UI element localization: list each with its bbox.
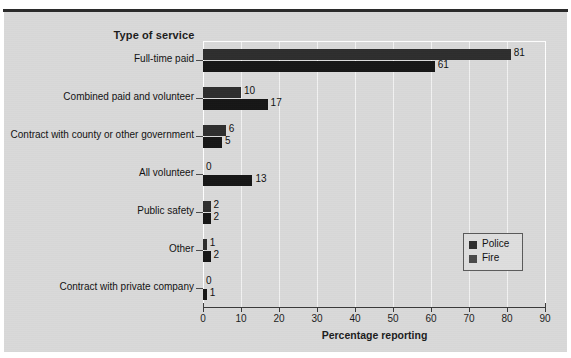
x-tick-label-10: 10 (226, 313, 256, 324)
bar-value-police-2: 6 (229, 123, 235, 134)
category-label-0: Full-time paid (0, 53, 194, 64)
x-tick-20 (279, 307, 280, 312)
x-tick-40 (355, 307, 356, 312)
plot-top-frame (203, 41, 545, 42)
category-label-1: Combined paid and volunteer (0, 91, 194, 102)
bar-fire-4 (203, 213, 211, 224)
category-tick-2 (196, 136, 203, 137)
category-label-2: Contract with county or other government (0, 129, 194, 140)
category-tick-4 (196, 212, 203, 213)
x-tick-label-70: 70 (454, 313, 484, 324)
x-tick-label-50: 50 (378, 313, 408, 324)
gridline-50 (393, 41, 394, 307)
bar-value-fire-6: 1 (210, 287, 216, 298)
x-tick-60 (431, 307, 432, 312)
bar-value-police-5: 1 (210, 237, 216, 248)
x-axis-line (203, 307, 546, 308)
bar-police-5 (203, 239, 207, 250)
x-tick-90 (545, 307, 546, 312)
x-tick-label-80: 80 (492, 313, 522, 324)
bar-fire-0 (203, 61, 435, 72)
bar-fire-3 (203, 175, 252, 186)
chart-panel: Type of service 8161101765013221201 0102… (4, 12, 567, 352)
x-tick-50 (393, 307, 394, 312)
bar-value-fire-4: 2 (214, 211, 220, 222)
legend-label-fire: Fire (482, 252, 499, 263)
legend-label-police: Police (482, 238, 509, 249)
category-label-3: All volunteer (0, 167, 194, 178)
x-tick-label-30: 30 (302, 313, 332, 324)
chart-legend: Police Fire (463, 233, 523, 271)
category-tick-6 (196, 288, 203, 289)
gridline-40 (355, 41, 356, 307)
bar-police-4 (203, 201, 211, 212)
gridline-60 (431, 41, 432, 307)
bar-value-police-6: 0 (206, 275, 212, 286)
bar-police-1 (203, 87, 241, 98)
x-tick-30 (317, 307, 318, 312)
x-tick-80 (507, 307, 508, 312)
bar-value-police-0: 81 (514, 47, 525, 58)
bar-value-police-4: 2 (214, 199, 220, 210)
bar-fire-6 (203, 289, 207, 300)
x-tick-0 (203, 307, 204, 312)
bar-value-fire-0: 61 (438, 59, 449, 70)
x-tick-label-40: 40 (340, 313, 370, 324)
legend-swatch-fire-icon (469, 255, 477, 263)
bar-police-0 (203, 49, 511, 60)
bar-fire-1 (203, 99, 268, 110)
category-label-5: Other (0, 243, 194, 254)
x-tick-10 (241, 307, 242, 312)
bar-value-fire-5: 2 (214, 249, 220, 260)
category-tick-1 (196, 98, 203, 99)
gridline-30 (317, 41, 318, 307)
category-tick-3 (196, 174, 203, 175)
bar-police-2 (203, 125, 226, 136)
x-axis-label: Percentage reporting (203, 329, 546, 341)
legend-swatch-police-icon (469, 241, 477, 249)
chart-title: Type of service (4, 29, 304, 41)
bar-value-fire-1: 17 (271, 97, 282, 108)
x-tick-label-60: 60 (416, 313, 446, 324)
category-label-4: Public safety (0, 205, 194, 216)
bar-value-fire-2: 5 (225, 135, 231, 146)
category-label-6: Contract with private company (0, 281, 194, 292)
category-tick-5 (196, 250, 203, 251)
clipped-header-strip (0, 0, 571, 9)
category-tick-0 (196, 60, 203, 61)
gridline-20 (279, 41, 280, 307)
x-tick-label-20: 20 (264, 313, 294, 324)
bar-value-police-3: 0 (206, 161, 212, 172)
bar-value-fire-3: 13 (255, 173, 266, 184)
figure-container: Type of service 8161101765013221201 0102… (0, 0, 571, 358)
x-tick-70 (469, 307, 470, 312)
x-tick-label-90: 90 (530, 313, 560, 324)
x-tick-label-0: 0 (188, 313, 218, 324)
bar-fire-5 (203, 251, 211, 262)
gridline-90 (545, 41, 546, 307)
bar-fire-2 (203, 137, 222, 148)
bar-value-police-1: 10 (244, 85, 255, 96)
